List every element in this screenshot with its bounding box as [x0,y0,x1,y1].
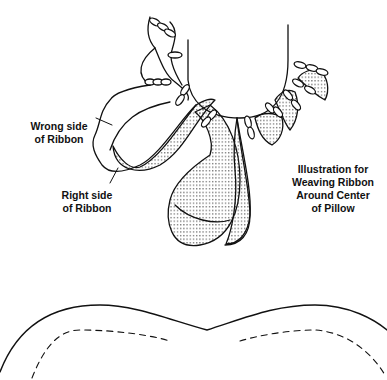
title-line-3: Around Center [278,189,387,202]
illustration-title: Illustration for Weaving Ribbon Around C… [278,163,387,215]
wrong-side-label: Wrong side of Ribbon [14,120,104,146]
title-line-4: of Pillow [278,202,387,215]
title-line-1: Illustration for [278,163,387,176]
right-side-label-line2: of Ribbon [42,202,132,215]
stitching-line [32,330,385,378]
wrong-side-label-line2: of Ribbon [14,133,104,146]
wrong-side-label-line1: Wrong side [14,120,104,133]
right-side-label-line1: Right side [42,189,132,202]
title-line-2: Weaving Ribbon [278,176,387,189]
right-side-label: Right side of Ribbon [42,189,132,215]
pillow-outline [0,305,387,372]
